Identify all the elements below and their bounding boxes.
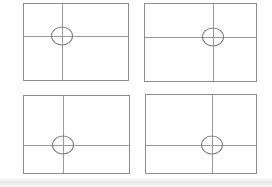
- focal-point-circle: [201, 135, 223, 154]
- page-edge-shadow: [0, 177, 272, 187]
- focal-point-circle: [202, 28, 224, 47]
- composition-frame-bottom-right: [145, 94, 257, 174]
- composition-frame-top-right: [144, 3, 257, 82]
- focal-point-circle: [51, 26, 73, 45]
- horizontal-gridline: [24, 145, 129, 146]
- vertical-gridline: [212, 95, 213, 173]
- composition-frame-top-left: [23, 3, 129, 81]
- composition-frame-bottom-left: [23, 95, 130, 174]
- horizontal-gridline: [24, 36, 128, 37]
- focal-point-circle: [52, 135, 74, 154]
- horizontal-gridline: [145, 37, 256, 38]
- diagram-canvas: [0, 0, 272, 187]
